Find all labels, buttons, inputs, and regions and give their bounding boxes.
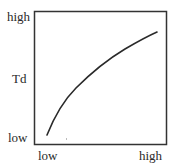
- y-axis-title-label: Td: [12, 72, 26, 85]
- scan-speck: [66, 138, 67, 140]
- plot-frame: [35, 12, 167, 145]
- y-axis-high-label: high: [7, 10, 30, 23]
- x-axis-low-label: low: [38, 149, 58, 162]
- y-axis-low-label: low: [8, 131, 28, 144]
- td-curve: [47, 32, 157, 135]
- x-axis-high-label: high: [139, 149, 162, 162]
